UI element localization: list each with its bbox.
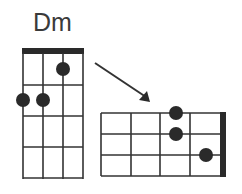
finger-dot	[169, 127, 183, 141]
horizontal-chord-diagram	[101, 112, 226, 177]
finger-dot	[56, 62, 70, 76]
vertical-chord-diagram	[22, 48, 84, 179]
finger-dot	[36, 93, 50, 107]
nut	[220, 112, 226, 177]
finger-dot	[199, 148, 213, 162]
chord-diagrams	[0, 0, 242, 194]
nut	[22, 48, 84, 54]
finger-dot	[169, 106, 183, 120]
finger-dot	[16, 93, 30, 107]
arrow-icon	[95, 63, 150, 102]
